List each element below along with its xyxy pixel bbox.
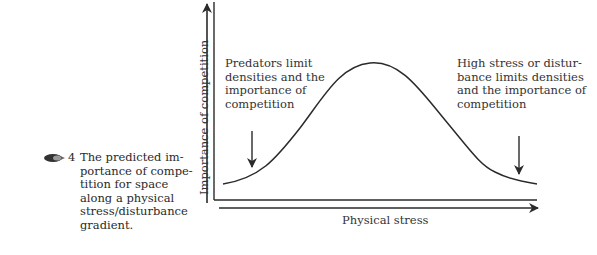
caption-line: portance of compe- (80, 165, 193, 179)
annotation-line: competition (457, 98, 586, 112)
caption-line: The predicted im- (80, 151, 193, 165)
figure-number: 4 (68, 151, 75, 165)
book-pointer-icon (44, 153, 65, 163)
annotation-line: importance of (225, 84, 325, 98)
annotation-line: bance limits densities (457, 71, 586, 85)
annotation-line: densities and the (225, 71, 325, 85)
annotation-line: High stress or distur- (457, 57, 586, 71)
caption-line: gradient. (80, 219, 193, 233)
caption-line: along a physical (80, 192, 193, 206)
x-axis-label: Physical stress (342, 213, 428, 227)
annotation-line: Predators limit (225, 57, 325, 71)
annotation-left: Predators limit densities and the import… (225, 57, 325, 111)
caption-line: tition for space (80, 178, 193, 192)
annotation-line: competition (225, 98, 325, 112)
caption-line: stress/disturbance (80, 205, 193, 219)
annotation-line: and the importance of (457, 84, 586, 98)
y-axis-label: Importance of competition (197, 40, 211, 195)
annotation-right: High stress or distur- bance limits dens… (457, 57, 586, 111)
